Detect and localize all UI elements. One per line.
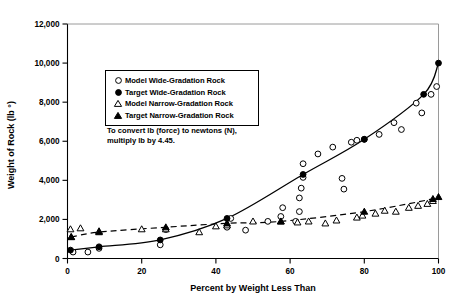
data-point xyxy=(392,208,399,214)
data-point xyxy=(322,220,329,226)
legend-item: Target Wide-Gradation Rock xyxy=(112,87,253,99)
data-point xyxy=(280,205,286,211)
data-point xyxy=(413,100,419,106)
filled-triangle-icon xyxy=(112,110,124,121)
open-triangle-icon xyxy=(112,98,124,109)
data-point xyxy=(315,151,321,157)
x-tick-label: 0 xyxy=(65,267,70,276)
legend-item: Model Narrow-Gradation Rock xyxy=(112,98,253,110)
data-point xyxy=(243,227,249,233)
data-point xyxy=(428,91,434,97)
data-point xyxy=(300,161,306,167)
chart-plot-area: 02,0004,0006,0008,00010,00012,000 020406… xyxy=(0,0,455,303)
data-point xyxy=(376,132,382,138)
data-point xyxy=(361,208,368,214)
data-point xyxy=(419,110,425,116)
x-axis-ticks xyxy=(68,259,439,264)
y-axis-tick-labels: 02,0004,0006,0008,00010,00012,000 xyxy=(34,20,59,264)
data-point xyxy=(330,144,336,150)
y-tick-label: 0 xyxy=(55,255,60,264)
x-axis-tick-labels: 020406080100 xyxy=(65,267,446,276)
x-tick-label: 60 xyxy=(286,267,296,276)
data-point xyxy=(296,195,302,201)
data-point xyxy=(298,185,304,191)
data-point xyxy=(300,172,306,178)
y-tick-label: 10,000 xyxy=(34,59,59,68)
x-tick-label: 80 xyxy=(360,267,370,276)
x-tick-label: 20 xyxy=(137,267,147,276)
data-point xyxy=(333,217,340,223)
legend-item-label: Model Wide-Gradation Rock xyxy=(124,76,225,85)
x-tick-label: 40 xyxy=(211,267,221,276)
chart-legend: Model Wide-Gradation Rock Target Wide-Gr… xyxy=(105,70,259,126)
data-point xyxy=(265,218,271,224)
data-point xyxy=(421,91,427,97)
data-point xyxy=(361,136,367,142)
legend-item-label: Target Wide-Gradation Rock xyxy=(124,88,226,97)
x-axis-title: Percent by Weight Less Than xyxy=(190,283,315,293)
data-point xyxy=(341,186,347,192)
data-point xyxy=(435,194,442,200)
data-point xyxy=(296,209,302,215)
data-point xyxy=(96,244,102,250)
y-tick-label: 2,000 xyxy=(39,215,60,224)
y-tick-label: 8,000 xyxy=(39,98,60,107)
unit-conversion-note: To convert lb (force) to newtons (N), mu… xyxy=(107,126,287,146)
filled-circle-icon xyxy=(112,87,124,98)
chart-figure: 02,0004,0006,0008,00010,00012,000 020406… xyxy=(0,0,455,303)
y-tick-label: 6,000 xyxy=(39,137,60,146)
data-point xyxy=(391,120,397,126)
y-axis-title: Weight of Rock (lb °) xyxy=(6,101,16,189)
legend-item-label: Model Narrow-Gradation Rock xyxy=(124,99,233,108)
data-point xyxy=(68,247,74,253)
data-point xyxy=(405,204,412,210)
legend-item: Model Wide-Gradation Rock xyxy=(112,75,253,87)
legend-item: Target Narrow-Gradation Rock xyxy=(112,110,253,122)
note-line-2: multiply lb by 4.45. xyxy=(107,136,287,146)
y-axis-ticks xyxy=(63,24,68,259)
legend-item-label: Target Narrow-Gradation Rock xyxy=(124,111,234,120)
data-point xyxy=(250,218,257,224)
data-point xyxy=(67,226,74,232)
y-tick-label: 12,000 xyxy=(34,20,59,29)
data-point xyxy=(354,137,360,143)
data-point xyxy=(434,84,440,90)
data-point xyxy=(436,60,442,66)
y-tick-label: 4,000 xyxy=(39,176,60,185)
data-point xyxy=(85,249,91,255)
data-point xyxy=(157,237,163,243)
data-point xyxy=(339,175,345,181)
open-circle-icon xyxy=(112,75,124,86)
data-point xyxy=(348,139,354,145)
data-point xyxy=(399,127,405,133)
x-tick-label: 100 xyxy=(432,267,446,276)
data-point xyxy=(415,202,422,208)
note-line-1: To convert lb (force) to newtons (N), xyxy=(107,126,287,136)
data-point xyxy=(372,210,379,216)
data-point xyxy=(77,225,84,231)
